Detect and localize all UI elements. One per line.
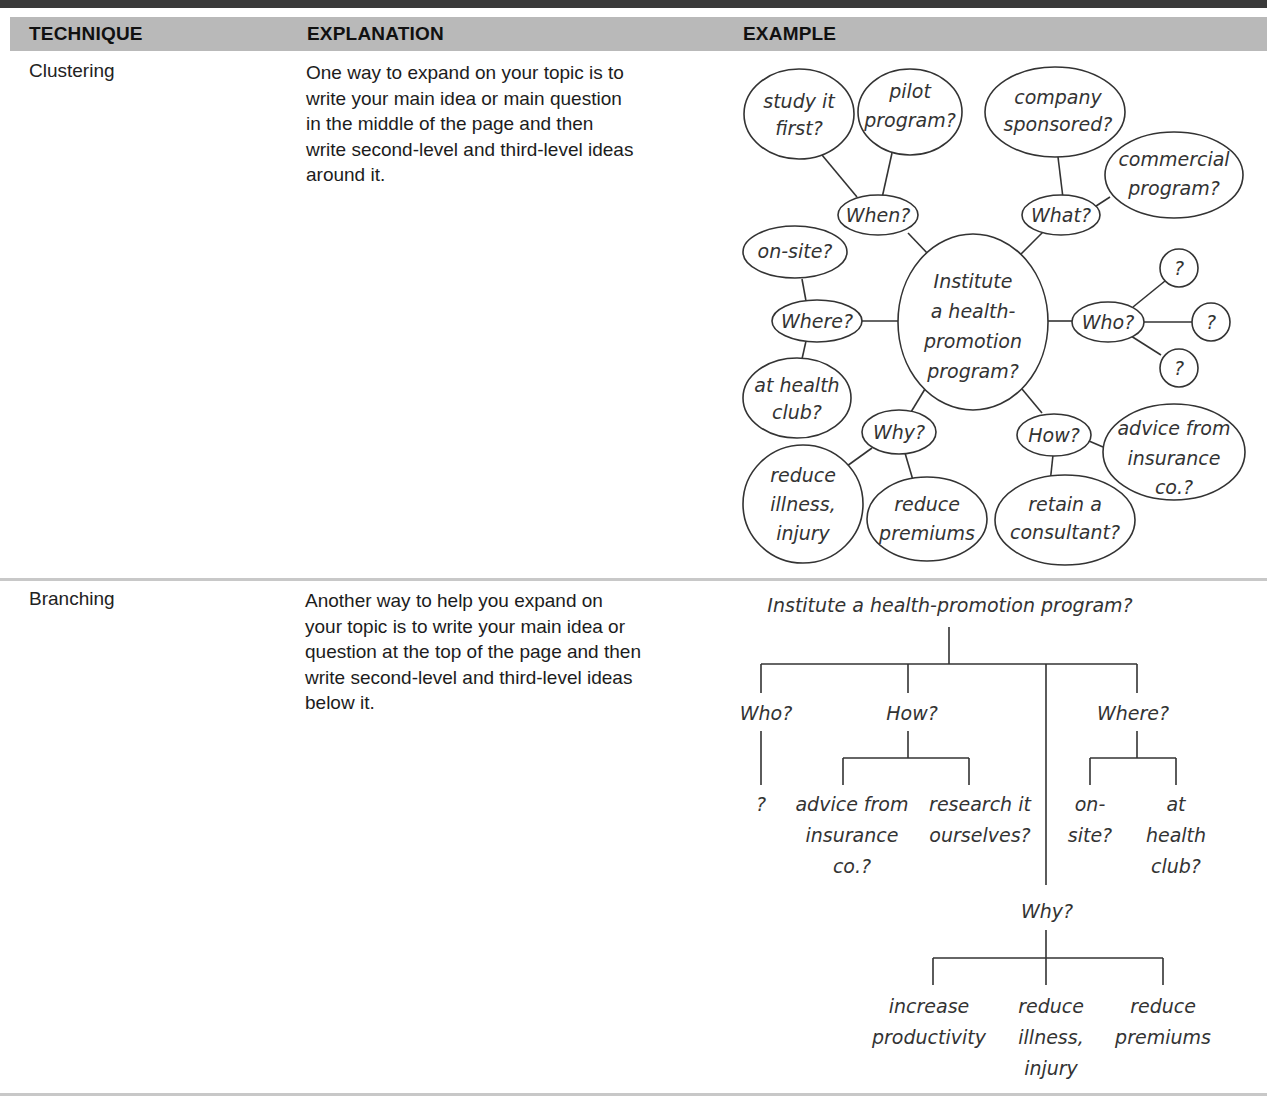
branch-who: Who? xyxy=(740,702,793,724)
svg-text:ourselves?: ourselves? xyxy=(929,824,1030,846)
svg-text:promotion: promotion xyxy=(923,330,1022,352)
svg-text:program?: program? xyxy=(926,360,1019,382)
svg-text:a health-: a health- xyxy=(931,300,1016,322)
svg-text:consultant?: consultant? xyxy=(1010,521,1120,543)
node-reduce-premiums xyxy=(867,477,987,561)
svg-text:program?: program? xyxy=(1127,177,1220,199)
node-center-topic xyxy=(898,234,1048,410)
svg-text:study it: study it xyxy=(763,90,836,112)
svg-text:What?: What? xyxy=(1031,204,1091,226)
svg-text:first?: first? xyxy=(775,117,823,139)
node-company-sponsored xyxy=(985,67,1125,157)
branching-diagram: Institute a health-promotion program? Wh… xyxy=(0,580,1267,1090)
node-study-it-first xyxy=(744,69,854,159)
svg-text:research it: research it xyxy=(929,793,1032,815)
svg-text:on-: on- xyxy=(1075,793,1106,815)
branch-where: Where? xyxy=(1097,702,1169,724)
svg-text:reduce: reduce xyxy=(1130,995,1196,1017)
svg-text:health: health xyxy=(1146,824,1206,846)
svg-text:premiums: premiums xyxy=(878,522,975,544)
table-bottom-rule xyxy=(0,1093,1267,1096)
svg-text:illness,: illness, xyxy=(1018,1026,1083,1048)
svg-text:injury: injury xyxy=(1024,1057,1078,1079)
svg-text:program?: program? xyxy=(863,109,956,131)
svg-text:co.?: co.? xyxy=(1155,476,1193,498)
svg-text:Who?: Who? xyxy=(1082,311,1135,333)
svg-text:reduce: reduce xyxy=(1018,995,1084,1017)
svg-text:premiums: premiums xyxy=(1114,1026,1211,1048)
svg-text:club?: club? xyxy=(1151,855,1201,877)
svg-text:When?: When? xyxy=(846,204,911,226)
branch-how: How? xyxy=(886,702,938,724)
svg-text:?: ? xyxy=(756,793,766,815)
svg-text:co.?: co.? xyxy=(833,855,871,877)
svg-text:company: company xyxy=(1014,86,1102,108)
svg-text:productivity: productivity xyxy=(871,1026,987,1048)
node-retain-consultant xyxy=(995,475,1135,565)
node-at-health-club xyxy=(743,358,851,438)
svg-text:insurance: insurance xyxy=(1128,447,1221,469)
svg-text:retain a: retain a xyxy=(1028,493,1102,515)
branch-root: Institute a health-promotion program? xyxy=(767,594,1132,616)
svg-text:illness,: illness, xyxy=(770,493,835,515)
svg-text:club?: club? xyxy=(772,401,822,423)
svg-text:site?: site? xyxy=(1068,824,1112,846)
svg-text:?: ? xyxy=(1174,257,1184,279)
branch-why: Why? xyxy=(1021,900,1073,922)
svg-text:injury: injury xyxy=(776,522,830,544)
svg-text:How?: How? xyxy=(1028,424,1080,446)
svg-text:?: ? xyxy=(1206,311,1216,333)
svg-text:sponsored?: sponsored? xyxy=(1004,113,1113,135)
svg-text:reduce: reduce xyxy=(770,464,836,486)
svg-text:on-site?: on-site? xyxy=(758,240,833,262)
svg-text:reduce: reduce xyxy=(894,493,960,515)
svg-text:at health: at health xyxy=(754,374,839,396)
svg-text:Why?: Why? xyxy=(873,421,925,443)
svg-text:advice from: advice from xyxy=(795,793,908,815)
svg-text:?: ? xyxy=(1174,357,1184,379)
svg-text:Where?: Where? xyxy=(781,310,853,332)
clustering-diagram: study it first? pilot program? When? com… xyxy=(0,0,1267,580)
svg-text:advice from: advice from xyxy=(1117,417,1230,439)
svg-text:increase: increase xyxy=(889,995,970,1017)
svg-text:pilot: pilot xyxy=(888,80,932,102)
svg-text:insurance: insurance xyxy=(806,824,899,846)
svg-text:Institute: Institute xyxy=(934,270,1013,292)
node-commercial-program xyxy=(1105,132,1243,218)
svg-text:at: at xyxy=(1166,793,1187,815)
svg-text:commercial: commercial xyxy=(1118,148,1230,170)
